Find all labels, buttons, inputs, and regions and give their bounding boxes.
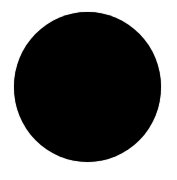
black-circle <box>14 12 161 162</box>
